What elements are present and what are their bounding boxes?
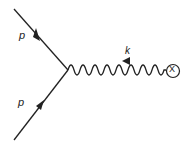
- label-k: k: [125, 45, 130, 56]
- diagram-lines: [0, 0, 186, 150]
- label-p-bottom: p: [18, 96, 24, 108]
- label-p-top: p: [19, 29, 25, 41]
- photon-wavy-line: [68, 65, 166, 75]
- label-x: X: [169, 64, 175, 74]
- arrow-top-icon: [33, 28, 40, 41]
- arrow-bottom-head: [36, 100, 44, 110]
- photon-arrow-icon: [122, 57, 130, 65]
- feynman-diagram: p p k X: [0, 0, 186, 150]
